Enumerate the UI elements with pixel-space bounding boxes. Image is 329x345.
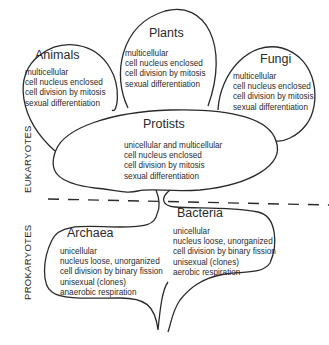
bacteria-traits: unicellular nucleus loose, unorganized c…	[173, 227, 276, 278]
protists-traits: unicellular and multicellular cell nucle…	[124, 141, 222, 182]
fungi-title: Fungi	[260, 52, 291, 66]
trait-item: sexual differentiation	[25, 99, 106, 109]
trait-item: unicellular and multicellular	[124, 141, 222, 151]
trait-item: cell nucleus enclosed	[25, 78, 106, 88]
archaea-traits: unicellular nucleus loose, unorganized c…	[60, 247, 163, 298]
trait-item: sexual differentiation	[125, 80, 206, 90]
trait-item: unisexual (clones)	[173, 258, 276, 268]
trait-item: cell division by mitosis	[124, 161, 222, 171]
trait-item: nucleus loose, unorganized	[60, 257, 163, 267]
trait-item: sexual differentiation	[124, 172, 222, 182]
plants-title: Plants	[149, 26, 184, 40]
trait-item: cell division by binary fission	[173, 247, 276, 257]
trait-item: sexual differentiation	[233, 103, 314, 113]
trait-item: multicellular	[125, 49, 206, 59]
trait-item: unicellular	[60, 247, 163, 257]
trait-item: nucleus loose, unorganized	[173, 237, 276, 247]
trait-item: multicellular	[25, 68, 106, 78]
fungi-traits: multicellular cell nucleus enclosed cell…	[233, 72, 314, 113]
domain-separator-line	[48, 199, 329, 205]
protists-title: Protists	[143, 117, 185, 131]
trait-item: cell nucleus enclosed	[124, 151, 222, 161]
plants-traits: multicellular cell nucleus enclosed cell…	[125, 49, 206, 90]
trait-item: cell nucleus enclosed	[125, 59, 206, 69]
animals-title: Animals	[35, 48, 79, 62]
trait-item: aerobic respiration	[173, 268, 276, 278]
trait-item: cell division by binary fission	[60, 267, 163, 277]
trait-item: cell division by mitosis	[125, 69, 206, 79]
animals-traits: multicellular cell nucleus enclosed cell…	[25, 68, 106, 109]
trait-item: unicellular	[173, 227, 276, 237]
trait-item: anaerobic respiration	[60, 288, 163, 298]
bacteria-title: Bacteria	[177, 206, 223, 220]
trait-item: cell division by mitosis	[233, 92, 314, 102]
trait-item: cell division by mitosis	[25, 88, 106, 98]
eukaryotes-label: EUKARYOTES	[22, 125, 33, 193]
trait-item: unisexual (clones)	[60, 278, 163, 288]
trait-item: cell nucleus enclosed	[233, 82, 314, 92]
trait-item: multicellular	[233, 72, 314, 82]
archaea-title: Archaea	[67, 226, 114, 240]
prokaryotes-label: PROKARYOTES	[22, 225, 33, 300]
